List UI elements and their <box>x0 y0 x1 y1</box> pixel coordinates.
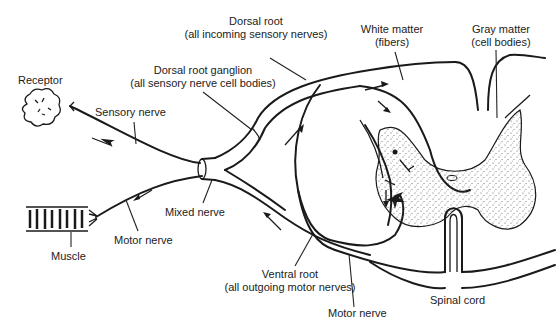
muscle-label: Muscle <box>51 250 86 263</box>
dorsal-root-label: Dorsal root (all incoming sensory nerves… <box>176 15 336 41</box>
muscle-icon <box>26 207 97 231</box>
gray-matter-subtitle: (cell bodies) <box>461 36 541 49</box>
white-matter-title: White matter <box>352 23 432 36</box>
motor-nerve-bottom-label: Motor nerve <box>328 307 387 320</box>
dorsal-root-ganglion-subtitle: (all sensory nerve cell bodies) <box>123 77 283 90</box>
gray-matter-label: Gray matter (cell bodies) <box>461 23 541 49</box>
ventral-root-label: Ventral root (all outgoing motor nerves) <box>210 268 370 294</box>
receptor-label: Receptor <box>18 74 63 87</box>
sensory-nerve-label: Sensory nerve <box>95 106 166 119</box>
mixed-nerve-label: Mixed nerve <box>165 206 225 219</box>
white-matter-subtitle: (fibers) <box>352 36 432 49</box>
spinal-cord-label: Spinal cord <box>430 294 485 307</box>
gray-matter-title: Gray matter <box>461 23 541 36</box>
dorsal-root-ganglion-title: Dorsal root ganglion <box>123 64 283 77</box>
motor-nerve-left-label: Motor nerve <box>114 234 173 247</box>
receptor-icon <box>22 89 60 126</box>
dorsal-root-ganglion-label: Dorsal root ganglion (all sensory nerve … <box>123 64 283 90</box>
dorsal-root-title: Dorsal root <box>176 15 336 28</box>
direction-arrows <box>92 81 391 235</box>
dorsal-root-subtitle: (all incoming sensory nerves) <box>176 28 336 41</box>
white-matter-label: White matter (fibers) <box>352 23 432 49</box>
ventral-root-subtitle: (all outgoing motor nerves) <box>210 281 370 294</box>
gray-matter <box>376 110 536 229</box>
ventral-root-title: Ventral root <box>210 268 370 281</box>
